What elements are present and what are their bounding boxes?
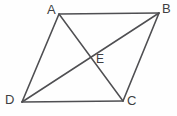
edge-ab — [59, 13, 159, 14]
vertex-label-a: A — [47, 3, 56, 16]
geometry-figure: A B C D E — [0, 0, 177, 116]
vertex-label-c: C — [127, 94, 136, 107]
vertex-label-b: B — [162, 2, 171, 15]
point-label-e: E — [96, 53, 104, 65]
edge-da — [22, 14, 59, 102]
edge-cd — [22, 101, 123, 102]
edge-bc — [123, 13, 159, 101]
diagonal-bd — [22, 13, 159, 102]
vertex-label-d: D — [5, 93, 14, 106]
parallelogram-diagram — [0, 0, 177, 116]
